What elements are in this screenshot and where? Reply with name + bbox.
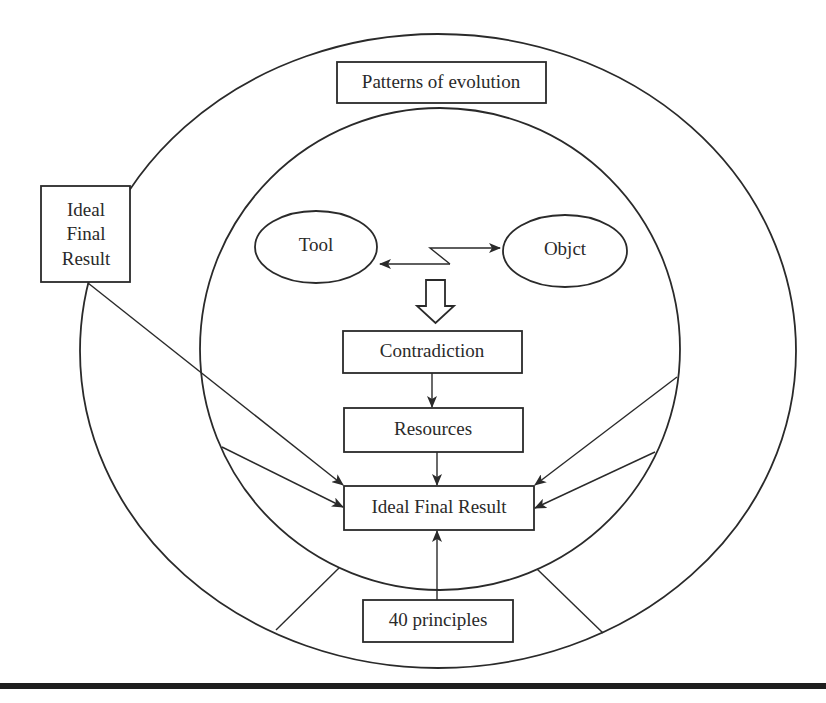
ideal-final-result-box: Ideal Final Result [344,486,534,530]
ring-divider-left [276,568,339,630]
arrow-inner-right-to-ifr [535,377,677,485]
side-box-line-3: Result [62,248,111,269]
conflict-zigzag-arrow [380,248,500,264]
object-node: Objct [503,215,627,287]
ring-divider-right [537,569,603,633]
contradiction-box: Contradiction [343,331,522,373]
side-box-line-2: Final [66,223,105,244]
arrow-ring-left-to-ifr [222,447,343,507]
resources-box: Resources [344,408,523,452]
ideal-final-result-label: Ideal Final Result [371,496,507,517]
forty-principles-label: 40 principles [389,609,488,630]
tool-node: Tool [255,211,377,283]
tool-label: Tool [299,234,334,255]
object-label: Objct [544,238,587,259]
arrow-side-ifr-to-ifr [88,283,343,485]
patterns-of-evolution-box: Patterns of evolution [337,62,546,103]
side-ideal-final-result-box: Ideal Final Result [41,186,130,282]
hollow-down-arrow-icon [417,280,454,323]
forty-principles-box: 40 principles [363,600,513,642]
page-rule [0,683,826,689]
arrow-ring-right-to-ifr [535,452,655,508]
patterns-of-evolution-label: Patterns of evolution [362,71,521,92]
contradiction-label: Contradiction [380,340,485,361]
side-box-line-1: Ideal [67,199,105,220]
resources-label: Resources [394,418,472,439]
triz-diagram: Patterns of evolution Ideal Final Result… [0,0,826,703]
